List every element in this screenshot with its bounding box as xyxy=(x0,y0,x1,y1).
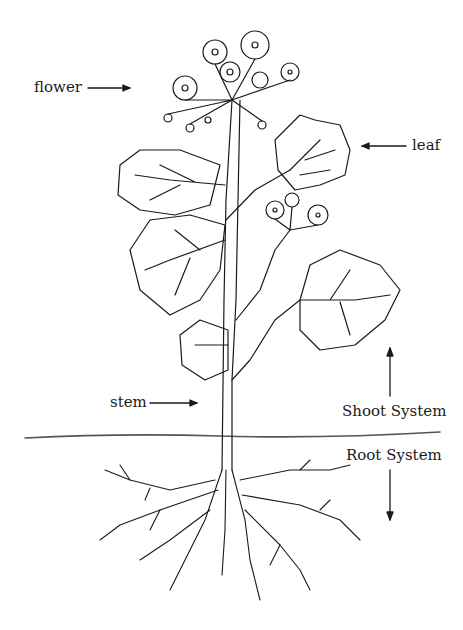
root-system-label: Root System xyxy=(346,446,442,464)
shoot-system-label: Shoot System xyxy=(342,402,446,420)
stem-label: stem xyxy=(110,393,147,411)
stem xyxy=(222,100,300,470)
roots xyxy=(100,460,360,600)
leaf-label: leaf xyxy=(412,136,440,154)
flower-label: flower xyxy=(34,78,82,96)
leaves xyxy=(118,115,400,380)
